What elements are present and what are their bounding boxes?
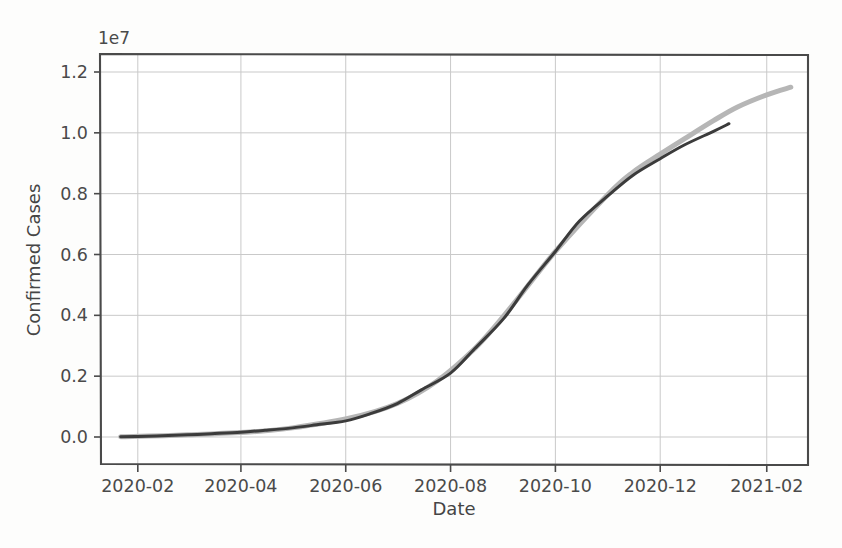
y-tick-label: 1.2 [60, 62, 88, 82]
y-axis-offset-label: 1e7 [98, 28, 130, 48]
y-tick-label: 0.2 [60, 366, 88, 386]
x-tick-label: 2020-12 [624, 476, 697, 496]
plot-background [100, 54, 808, 465]
y-tick-labels: 0.00.20.40.60.81.01.2 [60, 62, 88, 447]
x-tick-label: 2020-10 [519, 476, 592, 496]
x-tick-label: 2020-04 [204, 476, 277, 496]
x-tick-label: 2020-08 [414, 476, 487, 496]
y-tick-label: 1.0 [60, 123, 88, 143]
confirmed-cases-line-chart: 0.00.20.40.60.81.01.2 2020-022020-042020… [0, 0, 842, 548]
x-tick-label: 2020-02 [101, 476, 174, 496]
y-tick-label: 0.6 [60, 245, 88, 265]
y-tick-label: 0.0 [60, 427, 88, 447]
x-axis-title: Date [432, 498, 475, 519]
y-tick-label: 0.8 [60, 184, 88, 204]
y-tick-label: 0.4 [60, 305, 88, 325]
x-tick-label: 2021-02 [730, 476, 803, 496]
x-tick-labels: 2020-022020-042020-062020-082020-102020-… [101, 476, 803, 496]
chart-figure: 0.00.20.40.60.81.01.2 2020-022020-042020… [0, 0, 842, 548]
x-tick-label: 2020-06 [309, 476, 382, 496]
y-axis-title: Confirmed Cases [23, 184, 44, 337]
